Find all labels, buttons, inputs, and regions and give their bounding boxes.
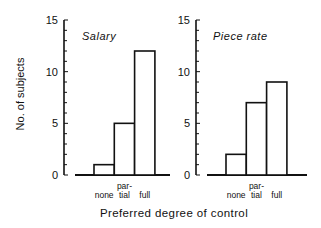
bar-none	[94, 165, 114, 175]
y-tick-label: 15	[46, 14, 58, 26]
bar-full	[267, 82, 287, 175]
panel-salary: Salary051015par-nonetialfull	[46, 14, 170, 200]
category-label-full: full	[139, 190, 150, 200]
bar-full	[135, 51, 155, 175]
y-tick-label: 10	[46, 66, 58, 78]
bar-none	[226, 154, 246, 175]
y-tick-label: 10	[178, 66, 190, 78]
panel-piece-rate: Piece rate051015par-nonetialfull	[178, 14, 307, 200]
panel-title: Piece rate	[213, 30, 268, 42]
y-tick-label: 15	[178, 14, 190, 26]
bar-partial	[114, 123, 134, 175]
y-axis-label: No. of subjects	[14, 57, 26, 130]
category-label-partial: tial	[119, 190, 130, 200]
panel-title: Salary	[82, 30, 117, 42]
y-tick-label: 0	[52, 169, 58, 181]
bar-partial	[246, 103, 266, 175]
category-label-none: none	[227, 190, 246, 200]
y-tick-label: 5	[184, 117, 190, 129]
chart-figure: No. of subjects Salary051015par-nonetial…	[0, 0, 321, 228]
y-tick-label: 0	[184, 169, 190, 181]
category-label-none: none	[95, 190, 114, 200]
x-axis-label: Preferred degree of control	[100, 207, 248, 219]
category-label-partial: tial	[251, 190, 262, 200]
y-tick-label: 5	[52, 117, 58, 129]
category-label-full: full	[271, 190, 282, 200]
